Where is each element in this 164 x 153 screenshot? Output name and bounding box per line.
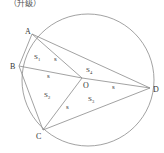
region-label-s2: S2	[44, 91, 50, 100]
segment-labels: ssss	[47, 55, 115, 111]
segment-bc	[19, 66, 43, 130]
point-label-c: C	[36, 132, 41, 141]
region-label-s3: S3	[88, 95, 95, 104]
segment-ab	[19, 34, 32, 66]
segment-length-label: s	[54, 55, 57, 63]
segment-length-label: s	[66, 103, 69, 111]
point-label-b: B	[10, 62, 15, 71]
segment-length-label: s	[112, 83, 115, 91]
segment-length-label: s	[47, 72, 50, 80]
segment-bo	[19, 66, 82, 78]
point-label-o: O	[83, 81, 89, 90]
point-label-a: A	[25, 27, 31, 36]
region-label-s1: S1	[34, 53, 40, 62]
region-label-s4: S4	[86, 66, 93, 75]
point-label-d: D	[153, 85, 159, 94]
geometry-diagram: A B C D O S1S2S3S4 ssss	[0, 0, 164, 153]
